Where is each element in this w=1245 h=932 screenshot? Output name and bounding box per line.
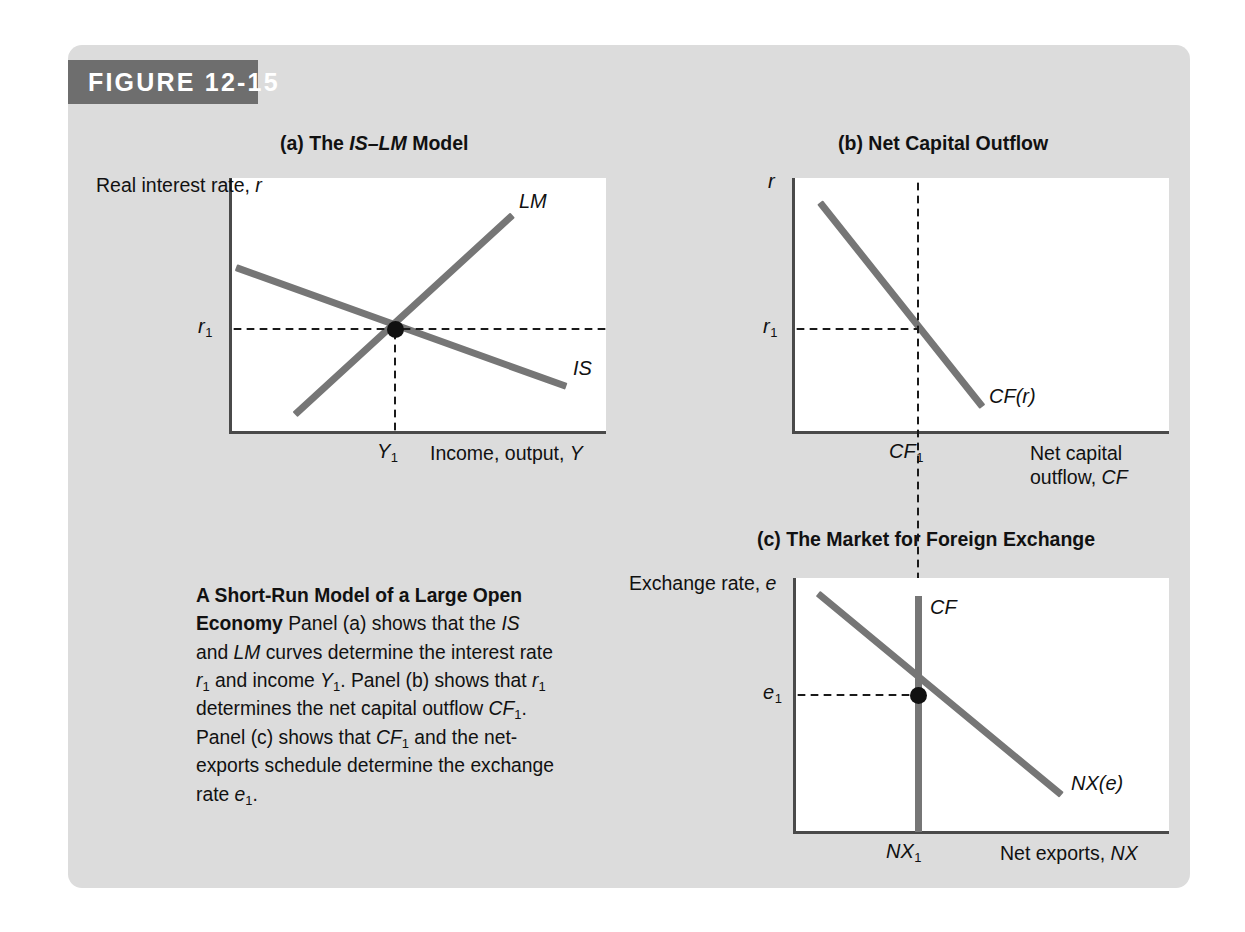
panel-c-equilibrium-dot	[910, 687, 927, 704]
panel-a-r1-guide-line	[231, 327, 606, 331]
panel-c-y-axis-label: Exchange rate, e	[629, 572, 776, 596]
panel-c-x-axis-label: Net exports, NX	[1000, 842, 1138, 866]
panel-a-x-axis-label: Income, output, Y	[430, 442, 583, 466]
panel-a-y-axis	[229, 178, 232, 434]
panel-a-lm-label: LM	[519, 190, 547, 213]
panel-c-cf-label: CF	[930, 596, 957, 619]
panel-c-cf-curve	[915, 596, 922, 832]
panel-a-x-tick-label: Y1	[377, 440, 398, 463]
panel-b-cf-label: CF(r)	[989, 385, 1036, 408]
figure-number-banner: FIGURE 12-15	[68, 60, 258, 104]
panel-c-x-axis	[793, 831, 1169, 834]
panel-a-title-prefix: (a) The	[280, 132, 349, 154]
panel-c-y-tick-label: e1	[763, 681, 781, 704]
panel-b-title: (b) Net Capital Outflow	[838, 132, 1048, 155]
panel-b-x-tick-label: CF1	[889, 440, 923, 463]
caption-body: Panel (a) shows that the IS and LM curve…	[196, 613, 554, 804]
panel-b-x-axis-label: Net capitaloutflow, CF	[1030, 442, 1128, 490]
figure-caption: A Short-Run Model of a Large Open Econom…	[196, 582, 554, 809]
panel-c-x-tick-label: NX1	[886, 840, 921, 863]
panel-a-y-axis-label: Real interest rate, r	[96, 174, 224, 198]
panel-a-equilibrium-dot	[387, 321, 404, 338]
panel-b-plot-area	[794, 178, 1169, 432]
panel-a-y1-guide-line	[393, 329, 397, 431]
panel-a-x-axis	[229, 431, 606, 434]
panel-b-x-axis	[792, 431, 1169, 434]
panel-b-y-axis	[792, 178, 795, 434]
panel-b-y-tick-label: r1	[763, 315, 777, 338]
panel-a-title-suffix: Model	[407, 132, 469, 154]
panel-a-is-label: IS	[573, 357, 592, 380]
panel-c-title: (c) The Market for Foreign Exchange	[757, 528, 1095, 551]
panel-b-y-axis-label: r	[768, 170, 775, 193]
panel-b-r1-guide-line	[794, 327, 918, 331]
panel-a-y-tick-label: r1	[198, 315, 212, 338]
figure-number-label: FIGURE 12-15	[68, 68, 280, 97]
panel-a-title: (a) The IS–LM Model	[280, 132, 469, 155]
panel-c-nx-label: NX(e)	[1071, 772, 1123, 795]
panel-a-title-italic: IS–LM	[349, 132, 406, 154]
panel-c-y-axis	[793, 578, 796, 834]
panel-c-e1-guide-line	[795, 693, 917, 697]
